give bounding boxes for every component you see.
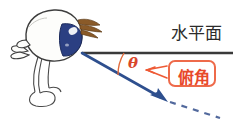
angle-arc xyxy=(118,53,124,75)
depression-angle-callout-label: 俯角 xyxy=(170,62,218,89)
horizontal-plane-label: 水平面 xyxy=(171,25,222,42)
line-of-sight-arrow xyxy=(82,53,168,102)
depression-angle-callout-box: 俯角 xyxy=(168,60,216,87)
theta-angle-label: θ xyxy=(128,56,138,71)
figure-canvas: 水平面 θ 俯角 xyxy=(0,0,233,124)
sight-line-extension xyxy=(170,102,220,118)
bird-illustration xyxy=(11,10,102,107)
bird-legs xyxy=(30,57,62,107)
bird-eye-highlight-small xyxy=(65,43,69,46)
callout-pointer-arrow xyxy=(146,66,167,78)
